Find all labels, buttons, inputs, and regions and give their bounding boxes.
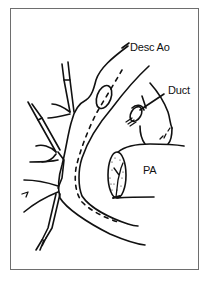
label-duct: Duct bbox=[168, 84, 190, 96]
upper-side-branch-2 bbox=[48, 114, 70, 118]
duct-suture bbox=[160, 128, 170, 139]
anatomy-drawing bbox=[0, 0, 208, 304]
intercostal-mid-tip bbox=[38, 118, 42, 120]
aorta-right-wall bbox=[79, 66, 149, 226]
upper-side-branch-1 bbox=[52, 104, 70, 112]
label-desc-ao: Desc Ao bbox=[130, 41, 170, 53]
pa-bottom-wall bbox=[117, 197, 154, 198]
intercostal-lower-b bbox=[46, 194, 60, 238]
intercostal-mid-b bbox=[32, 104, 60, 150]
diagram-figure: Desc Ao Duct PA bbox=[0, 0, 208, 304]
duct-left-wall bbox=[140, 126, 145, 144]
lower-side-branch-2 bbox=[24, 180, 58, 186]
oval-branch bbox=[114, 163, 123, 197]
label-pa: PA bbox=[143, 164, 156, 176]
stipple-dots bbox=[109, 157, 123, 190]
arrow-marker bbox=[22, 192, 28, 197]
intercostal-lower-tip bbox=[36, 238, 46, 250]
pa-top-wall bbox=[118, 144, 184, 152]
lower-side-branch-1 bbox=[30, 160, 58, 162]
